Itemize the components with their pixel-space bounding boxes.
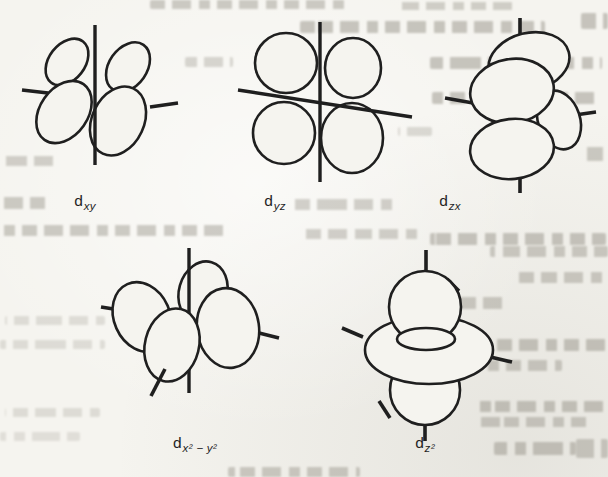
diagonal-axis-stub-lower-left (379, 401, 390, 418)
bleed-through-text-row (5, 316, 105, 325)
bleed-through-text-row (228, 467, 360, 477)
orbital-figure-dyz (235, 15, 415, 187)
label-subscript: x² − y² (183, 442, 217, 454)
label-base: d (439, 192, 448, 209)
label-base: d (264, 192, 273, 209)
bleed-through-text-row (518, 272, 608, 283)
x-axis-stub (22, 90, 48, 93)
bleed-through-text-row (5, 408, 100, 417)
orbital-label-dzx: dzx (415, 192, 485, 212)
x-axis-stub-left (342, 328, 363, 337)
label-subscript: yz (274, 200, 286, 212)
label-subscript: zx (449, 200, 461, 212)
bleed-through-text-row (0, 432, 80, 441)
x-axis-stub-left (445, 98, 473, 103)
bleed-through-text-row (0, 340, 105, 349)
label-base: d (415, 434, 424, 451)
scanned-book-page: dxy dyz dzx (0, 0, 608, 477)
x-axis-stub-right (259, 333, 279, 338)
orbital-label-dz2: dz² (385, 434, 465, 454)
bleed-through-text-row (150, 0, 350, 9)
orbital-lobe (79, 77, 157, 164)
orbital-figure-dzx (443, 10, 603, 200)
bleed-through-text-row (395, 2, 513, 10)
label-subscript: xy (84, 200, 96, 212)
orbital-label-dxy: dxy (50, 192, 120, 212)
bleed-through-text-row (0, 197, 48, 209)
orbital-lobe (253, 102, 315, 164)
orbital-lobe (325, 38, 381, 98)
bleed-through-text-row (185, 57, 233, 67)
dxy-orbital-diagram (15, 15, 185, 170)
bleed-through-text-row (300, 229, 418, 239)
label-subscript: z² (425, 442, 435, 454)
orbital-lobe (255, 33, 317, 93)
orbital-collar-ring (397, 328, 455, 350)
bleed-through-text-row (576, 439, 608, 458)
bleed-through-text-row (0, 225, 227, 236)
dz2-orbital-diagram (335, 245, 520, 445)
bleed-through-text-row (430, 233, 606, 245)
orbital-figure-dz2 (335, 245, 520, 445)
orbital-label-dx2-y2: dx² − y² (140, 434, 250, 454)
label-base: d (173, 434, 182, 451)
dzx-orbital-diagram (443, 10, 603, 200)
orbital-label-dyz: dyz (240, 192, 310, 212)
orbital-figure-dxy (15, 15, 185, 170)
label-base: d (74, 192, 83, 209)
orbital-lobe (321, 103, 383, 173)
dx2-y2-orbital-diagram (95, 243, 290, 403)
y-axis-stub (150, 103, 178, 107)
dyz-orbital-diagram (235, 15, 415, 187)
orbital-figure-dx2-y2 (95, 243, 290, 403)
